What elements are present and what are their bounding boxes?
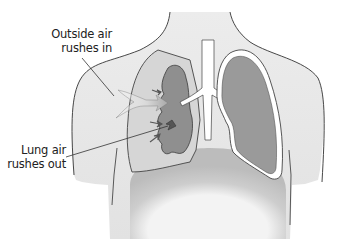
label-lung-air: Lung air rushes out [4,143,66,171]
label-lung-air-line1: Lung air [4,143,66,157]
label-outside-air-line2: rushes in [20,41,112,55]
label-outside-air-line1: Outside air [20,27,112,41]
label-lung-air-line2: rushes out [4,157,66,171]
label-outside-air: Outside air rushes in [20,27,112,55]
